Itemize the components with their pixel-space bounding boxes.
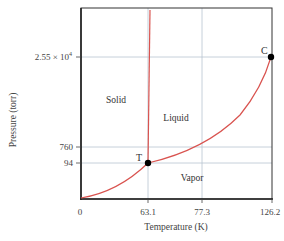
x-tick-label-126: 126.2: [260, 207, 280, 217]
sublimation-curve: [81, 163, 148, 198]
triple-point-marker: [145, 160, 151, 166]
x-tick-label-77: 77.3: [194, 207, 210, 217]
y-axis-title: Pressure (torr): [8, 93, 19, 148]
region-liquid-label: Liquid: [163, 113, 189, 123]
x-tick-label-63: 63.1: [140, 207, 156, 217]
y-tick-label-top: 2.55 × 104: [35, 51, 72, 62]
triple-point-label: T: [136, 152, 142, 163]
x-axis-title: Temperature (K): [144, 222, 207, 233]
y-tick-label-94: 94: [64, 158, 74, 168]
region-solid-label: Solid: [106, 95, 126, 105]
y-tick-label-760: 760: [60, 142, 74, 152]
phase-diagram: T C Solid Liquid Vapor 2.55 × 104 760 94…: [0, 0, 284, 241]
critical-point-label: C: [261, 45, 268, 56]
region-vapor-label: Vapor: [181, 173, 205, 183]
x-tick-label-0: 0: [78, 207, 83, 217]
critical-point-marker: [268, 54, 274, 60]
